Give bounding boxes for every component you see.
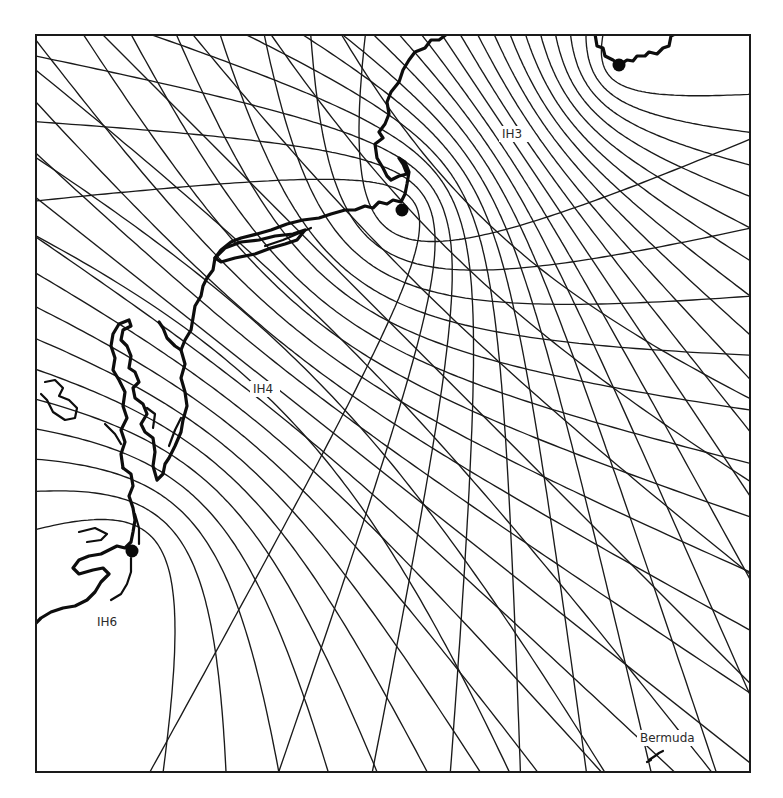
coast-new-england: [181, 34, 447, 350]
chart-canvas: IH3IH4IH6Bermuda: [35, 34, 751, 773]
coast-nova-scotia: [595, 34, 675, 64]
chart-labels: IH3IH4IH6Bermuda: [94, 126, 695, 746]
coastline: [35, 34, 675, 624]
coast-chesapeake-islands: [41, 380, 181, 446]
coast-pamlico: [79, 528, 107, 542]
hyperbola-line-ih3: [548, 34, 752, 773]
station-dot-cape-cod: [396, 204, 409, 217]
hyperbola-line-ih4: [304, 34, 751, 270]
hyperbola-line-ih4: [35, 520, 175, 774]
hyperbola-line-ih3: [68, 34, 751, 773]
pair-label-ih3: IH3: [502, 127, 522, 141]
hyperbola-line-ih3: [569, 34, 751, 773]
place-label-bermuda: Bermuda: [640, 731, 695, 745]
bermuda-island: [647, 751, 663, 762]
pair-label-ih6: IH6: [97, 615, 117, 629]
navigation-chart: IH3IH4IH6Bermuda: [35, 34, 751, 773]
station-dot-cape-hatteras: [126, 545, 139, 558]
pair-label-ih4: IH4: [253, 382, 273, 396]
hyperbola-line-ih3: [35, 34, 452, 773]
station-dot-nova-scotia: [613, 59, 626, 72]
